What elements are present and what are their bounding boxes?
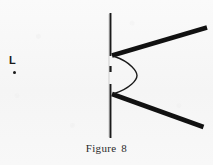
figure-diagram	[0, 0, 213, 165]
lower-wedge-arm	[112, 94, 204, 127]
upper-wedge-arm	[112, 28, 207, 56]
source-label-L: L	[9, 55, 16, 66]
figure-page: L Figure8	[0, 0, 213, 165]
caption-number: 8	[121, 142, 127, 154]
wavefront-arc	[115, 57, 138, 94]
figure-caption: Figure8	[0, 142, 213, 154]
caption-word: Figure	[86, 142, 117, 154]
light-source-point	[13, 71, 16, 74]
